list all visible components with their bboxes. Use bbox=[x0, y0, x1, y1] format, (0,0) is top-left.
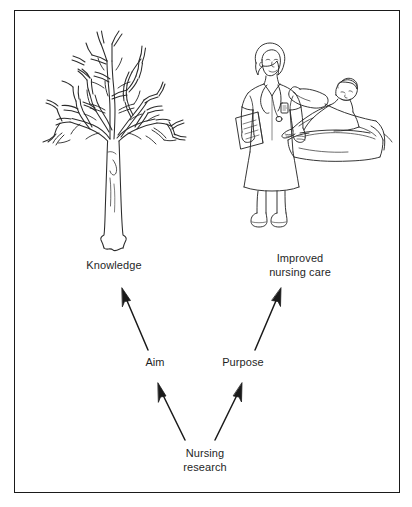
label-improved-nursing-care: Improved nursing care bbox=[230, 252, 370, 279]
arrow-nursing-research-to-purpose bbox=[215, 383, 242, 440]
nurse-and-patient-illustration bbox=[236, 43, 392, 227]
arrow-nursing-research-to-aim bbox=[158, 383, 185, 440]
arrow-purpose-to-improved-nursing-care bbox=[255, 288, 281, 350]
stethoscope-bell bbox=[276, 116, 282, 121]
figure-root: Knowledge Improved nursing care Aim Purp… bbox=[0, 0, 412, 507]
label-aim: Aim bbox=[110, 356, 200, 370]
label-purpose: Purpose bbox=[188, 356, 298, 370]
arrow-aim-to-knowledge bbox=[122, 288, 148, 350]
label-nursing-research: Nursing research bbox=[150, 447, 260, 474]
label-knowledge: Knowledge bbox=[44, 259, 184, 273]
pillow bbox=[289, 87, 328, 108]
bare-tree-illustration bbox=[43, 31, 186, 251]
nurse-shoe-right bbox=[271, 213, 287, 227]
nurse-shoe-left bbox=[251, 213, 267, 227]
